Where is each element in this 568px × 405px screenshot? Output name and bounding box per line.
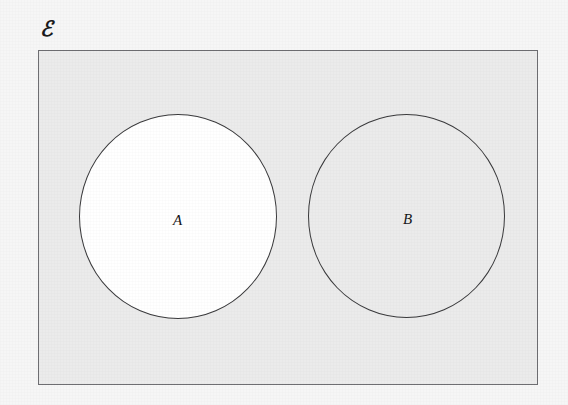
universal-set-label: ℰ <box>40 18 53 39</box>
set-b-label: B <box>403 212 412 227</box>
venn-diagram-figure: ℰ A B <box>0 0 568 405</box>
set-a-label: A <box>173 213 182 228</box>
universal-set-rectangle: A B <box>38 50 538 385</box>
